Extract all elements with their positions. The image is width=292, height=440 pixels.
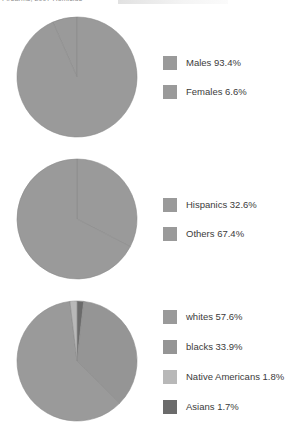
legend-label: Males 93.4% [186, 58, 241, 68]
legend-swatch-males [163, 56, 177, 70]
caption-smudge [118, 0, 228, 4]
legend-label: whites 57.6% [186, 312, 243, 322]
pie-gender-slices [17, 17, 137, 137]
pie-chart-race [16, 300, 138, 422]
legend-item: Females 6.6% [163, 85, 291, 99]
legend-item: Others 67.4% [163, 227, 291, 241]
legend-label: Native Americans 1.8% [186, 372, 284, 382]
legend-item: whites 57.6% [163, 310, 291, 324]
caption-text: Firearms, 2007 Homicide [2, 0, 83, 2]
legend-item: Males 93.4% [163, 56, 291, 70]
clipped-caption-strip: Firearms, 2007 Homicide [0, 0, 292, 8]
pie-panel-ethnicity: Hispanics 32.6%Others 67.4% [0, 154, 292, 290]
legend-label: Others 67.4% [186, 229, 244, 239]
legend-swatch-females [163, 85, 177, 99]
pie-panel-race: whites 57.6%blacks 33.9%Native Americans… [0, 296, 292, 436]
legend-label: Hispanics 32.6% [186, 200, 257, 210]
legend-item: Native Americans 1.8% [163, 370, 291, 384]
legend-swatch-native-americans [163, 370, 177, 384]
pie-slice-males [17, 17, 137, 137]
pie-race-slices [17, 301, 137, 421]
legend-item: Asians 1.7% [163, 400, 291, 414]
pie-chart-ethnicity [16, 158, 138, 280]
legend-swatch-asians [163, 400, 177, 414]
legend-label: blacks 33.9% [186, 342, 243, 352]
legend-swatch-hispanics [163, 198, 177, 212]
legend-label: Asians 1.7% [186, 402, 239, 412]
legend-gender: Males 93.4%Females 6.6% [163, 56, 291, 114]
pie-ethnicity-svg [16, 158, 138, 280]
pie-panel-gender: Males 93.4%Females 6.6% [0, 12, 292, 148]
legend-ethnicity: Hispanics 32.6%Others 67.4% [163, 198, 291, 256]
legend-item: blacks 33.9% [163, 340, 291, 354]
pie-gender-svg [16, 16, 138, 138]
pie-chart-gender [16, 16, 138, 138]
legend-swatch-blacks [163, 340, 177, 354]
pie-ethnicity-slices [17, 159, 137, 279]
legend-item: Hispanics 32.6% [163, 198, 291, 212]
legend-label: Females 6.6% [186, 87, 247, 97]
legend-swatch-whites [163, 310, 177, 324]
pie-race-svg [16, 300, 138, 422]
legend-race: whites 57.6%blacks 33.9%Native Americans… [163, 310, 291, 430]
legend-swatch-others [163, 227, 177, 241]
